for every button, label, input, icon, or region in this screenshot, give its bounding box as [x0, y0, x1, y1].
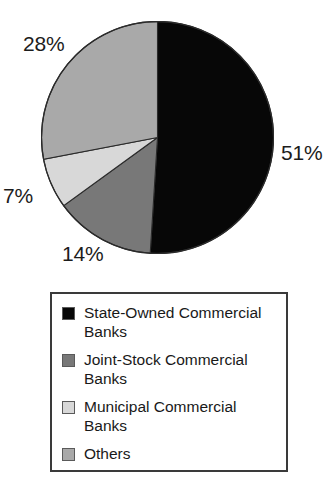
legend-label-state-owned: State-Owned Commercial Banks: [84, 303, 280, 341]
pie-label-state-owned-percent: 51%: [281, 142, 322, 163]
legend-list: State-Owned Commercial Banks Joint-Stock…: [62, 303, 280, 463]
pie-label-joint-stock-percent: 14%: [62, 243, 103, 264]
legend-swatch-icon-state-owned: [62, 307, 75, 320]
legend-item-municipal: Municipal Commercial Banks: [62, 397, 280, 435]
legend-label-joint-stock: Joint-Stock Commercial Banks: [84, 350, 280, 388]
pie-slice-state-owned: [150, 21, 273, 253]
pie-svg: [41, 21, 274, 254]
legend-item-state-owned: State-Owned Commercial Banks: [62, 303, 280, 341]
legend-swatch-icon-municipal: [62, 401, 75, 414]
pie-label-municipal-percent: 7%: [3, 185, 33, 206]
legend-swatch-icon-joint-stock: [62, 354, 75, 367]
pie-chart-graphic: [41, 21, 274, 254]
legend-item-joint-stock: Joint-Stock Commercial Banks: [62, 350, 280, 388]
legend-label-others: Others: [84, 444, 131, 463]
legend-swatch-icon-others: [62, 448, 75, 461]
legend-label-municipal: Municipal Commercial Banks: [84, 397, 280, 435]
pie-label-others-percent: 28%: [23, 33, 64, 54]
legend-item-others: Others: [62, 444, 280, 463]
chart-legend: State-Owned Commercial Banks Joint-Stock…: [50, 292, 288, 472]
pie-chart-figure: 28% 51% 7% 14% State-Owned Commercial Ba…: [0, 0, 335, 499]
